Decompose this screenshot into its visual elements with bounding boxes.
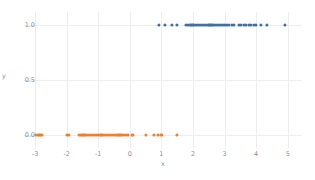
- data-point: [40, 133, 43, 136]
- data-point: [283, 24, 286, 27]
- data-point: [152, 133, 155, 136]
- data-point: [68, 133, 71, 136]
- data-point: [157, 24, 160, 27]
- grid-line-horizontal-1: [24, 80, 302, 81]
- data-point: [164, 24, 167, 27]
- data-point: [156, 133, 159, 136]
- y-axis-label: y: [2, 73, 6, 80]
- scatter-plot-figure: -3-2-1012345 0.00.51.0 x y: [0, 0, 315, 180]
- x-tick-label-2: -1: [95, 151, 101, 158]
- data-point: [265, 24, 268, 27]
- x-tick-label-1: -2: [63, 151, 69, 158]
- x-tick-label-0: -3: [32, 151, 38, 158]
- data-point: [232, 24, 235, 27]
- x-tick-label-3: 0: [128, 151, 132, 158]
- x-axis-label: x: [161, 161, 165, 168]
- data-point: [170, 24, 173, 27]
- plot-area: [24, 12, 302, 148]
- data-point: [160, 133, 163, 136]
- data-point: [260, 24, 263, 27]
- x-tick-label-7: 4: [254, 151, 258, 158]
- data-point: [176, 24, 179, 27]
- x-tick-label-6: 3: [223, 151, 227, 158]
- y-tick-label-0: 0.0: [25, 132, 35, 139]
- data-point: [144, 133, 147, 136]
- data-point: [131, 133, 134, 136]
- data-point: [175, 133, 178, 136]
- x-tick-label-4: 1: [159, 151, 163, 158]
- y-tick-label-2: 1.0: [25, 22, 35, 29]
- y-tick-label-1: 0.5: [25, 77, 35, 84]
- data-point: [255, 24, 258, 27]
- x-tick-label-5: 2: [191, 151, 195, 158]
- x-tick-label-8: 5: [286, 151, 290, 158]
